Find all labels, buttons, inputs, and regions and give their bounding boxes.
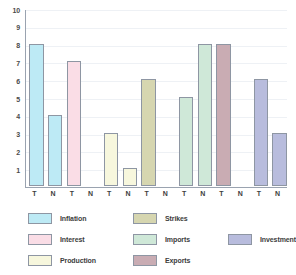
y-tick-label-5: 5 xyxy=(16,96,20,103)
x-tick-label-5: N xyxy=(119,189,138,199)
legend-item-exports[interactable]: Exports xyxy=(133,254,190,267)
plot-area: 12345678910 TNTNTNTNTNTNTN xyxy=(0,0,296,206)
legend-swatch-interest xyxy=(28,234,52,245)
legend-item-strikes[interactable]: Strikes xyxy=(133,212,188,225)
legend-swatch-strikes xyxy=(133,213,157,224)
x-tick-label-4: T xyxy=(100,189,119,199)
x-axis-tick-labels: TNTNTNTNTNTNTN xyxy=(25,189,287,203)
y-axis-tick-labels: 12345678910 xyxy=(0,0,23,206)
bar-investment-n xyxy=(272,133,287,186)
x-tick-label-3: N xyxy=(81,189,100,199)
plot-frame xyxy=(25,10,287,188)
x-tick-label-0: T xyxy=(25,189,44,199)
legend-label-exports: Exports xyxy=(165,257,190,264)
legend-label-imports: Imports xyxy=(165,236,190,243)
bar-imports-t xyxy=(179,97,194,186)
legend-label-interest: Interest xyxy=(60,236,85,243)
bar-production-t xyxy=(104,133,119,186)
bar-inflation-n xyxy=(48,115,63,186)
y-tick-label-2: 2 xyxy=(16,149,20,156)
x-tick-label-1: N xyxy=(44,189,63,199)
x-tick-label-13: N xyxy=(268,189,287,199)
x-tick-label-11: N xyxy=(231,189,250,199)
legend-item-investment[interactable]: Investment xyxy=(228,233,296,246)
legend-label-strikes: Strikes xyxy=(165,215,188,222)
bar-imports-n xyxy=(198,44,213,186)
x-tick-label-10: T xyxy=(212,189,231,199)
legend-label-inflation: Inflation xyxy=(60,215,86,222)
bar-strikes-t xyxy=(141,79,156,186)
x-tick-label-8: T xyxy=(175,189,194,199)
y-tick-label-4: 4 xyxy=(16,113,20,120)
legend-label-production: Production xyxy=(60,257,96,264)
bar-interest-t xyxy=(67,61,82,186)
bar-inflation-t xyxy=(29,44,44,186)
y-tick-label-7: 7 xyxy=(16,60,20,67)
y-tick-label-6: 6 xyxy=(16,78,20,85)
x-tick-label-9: N xyxy=(193,189,212,199)
bar-investment-t xyxy=(254,79,269,186)
x-tick-label-2: T xyxy=(62,189,81,199)
legend-item-interest[interactable]: Interest xyxy=(28,233,85,246)
bar-exports-t xyxy=(216,44,231,186)
legend-swatch-imports xyxy=(133,234,157,245)
bar-chart: 12345678910 TNTNTNTNTNTNTN InflationInte… xyxy=(0,0,296,275)
chart-legend: InflationInterestProductionStrikesImport… xyxy=(0,208,296,275)
legend-label-investment: Investment xyxy=(260,236,296,243)
x-tick-label-6: T xyxy=(137,189,156,199)
bars-layer xyxy=(27,10,287,186)
y-tick-label-1: 1 xyxy=(16,167,20,174)
x-tick-label-12: T xyxy=(250,189,269,199)
x-tick-label-7: N xyxy=(156,189,175,199)
y-tick-label-9: 9 xyxy=(16,24,20,31)
y-tick-label-3: 3 xyxy=(16,131,20,138)
y-tick-label-8: 8 xyxy=(16,42,20,49)
legend-swatch-exports xyxy=(133,255,157,266)
bar-production-n xyxy=(123,168,138,186)
y-tick-label-10: 10 xyxy=(13,7,20,14)
legend-item-production[interactable]: Production xyxy=(28,254,96,267)
legend-item-imports[interactable]: Imports xyxy=(133,233,190,246)
legend-swatch-inflation xyxy=(28,213,52,224)
legend-item-inflation[interactable]: Inflation xyxy=(28,212,86,225)
legend-swatch-production xyxy=(28,255,52,266)
legend-swatch-investment xyxy=(228,234,252,245)
